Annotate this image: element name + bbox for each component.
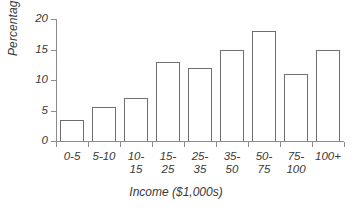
y-tick-mark <box>51 19 56 20</box>
y-axis-line <box>56 19 57 142</box>
x-tick-mark <box>152 142 153 147</box>
bar <box>188 68 213 141</box>
x-tick-label: 5-10 <box>88 150 120 163</box>
bar <box>92 107 117 141</box>
x-tick-label: 15- 25 <box>152 150 184 176</box>
x-tick-label: 100+ <box>312 150 344 163</box>
y-tick-label-wrap: 20 <box>8 19 48 20</box>
y-tick-label-wrap: 10 <box>8 80 48 81</box>
x-tick-mark <box>344 142 345 147</box>
bar-chart: Percentage 20151050 0-55-1010- 1515- 252… <box>0 0 352 212</box>
x-tick-mark <box>120 142 121 147</box>
y-tick-label: 20 <box>14 12 48 24</box>
x-tick-label: 50- 75 <box>248 150 280 176</box>
bar <box>156 62 181 141</box>
bar <box>316 50 341 142</box>
x-tick-mark <box>248 142 249 147</box>
y-tick-label-wrap: 0 <box>8 141 48 142</box>
x-tick-mark <box>216 142 217 147</box>
bar <box>60 120 85 141</box>
bar <box>220 50 245 142</box>
x-tick-label: 0-5 <box>56 150 88 163</box>
y-tick-label: 5 <box>14 104 48 116</box>
x-tick-label: 35- 50 <box>216 150 248 176</box>
y-tick-label-wrap: 5 <box>8 111 48 112</box>
bar <box>124 98 149 141</box>
x-tick-label: 10- 15 <box>120 150 152 176</box>
x-axis-title: Income ($1,000s) <box>0 185 352 199</box>
x-tick-mark <box>88 142 89 147</box>
y-tick-mark <box>51 111 56 112</box>
x-tick-label: 25- 35 <box>184 150 216 176</box>
x-tick-mark <box>280 142 281 147</box>
x-tick-mark <box>312 142 313 147</box>
x-tick-mark <box>184 142 185 147</box>
y-tick-mark <box>51 80 56 81</box>
y-tick-label-wrap: 15 <box>8 50 48 51</box>
x-tick-mark <box>56 142 57 147</box>
x-axis-line <box>56 141 344 142</box>
bar <box>252 31 277 141</box>
y-tick-label: 10 <box>14 73 48 85</box>
bar <box>284 74 309 141</box>
x-tick-label: 75- 100 <box>280 150 312 176</box>
y-tick-mark <box>51 50 56 51</box>
y-tick-label: 15 <box>14 43 48 55</box>
y-tick-label: 0 <box>14 134 48 146</box>
